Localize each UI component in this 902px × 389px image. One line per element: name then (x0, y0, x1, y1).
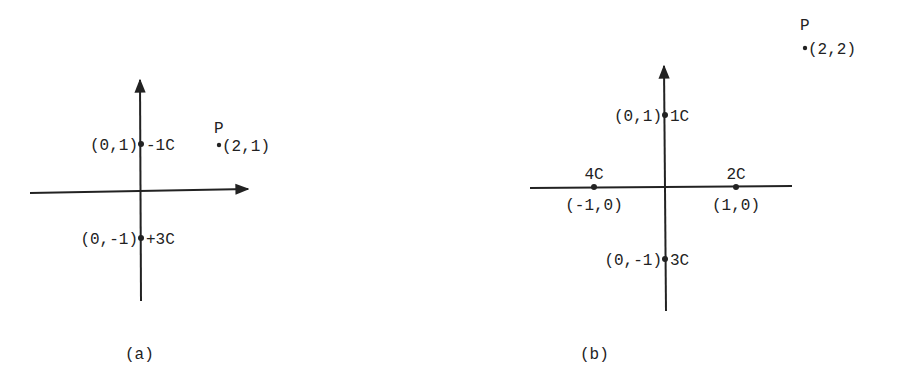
charge-dot (733, 184, 739, 190)
point-p: (2,1)P (214, 120, 270, 156)
coordinate-label: (-1,0) (565, 197, 623, 215)
charge-label: +3C (146, 231, 175, 249)
y-axis (140, 80, 141, 301)
caption-a: (a) (125, 346, 154, 364)
coordinate-label: (0,1) (614, 108, 662, 126)
charge-label: 2C (726, 166, 745, 184)
coordinate-label: (1,0) (712, 197, 760, 215)
charge-point: (0,1)1C (614, 108, 689, 126)
charge-point: 4C(-1,0) (565, 166, 623, 215)
panel-b: (0,1)1C(0,-1)3C2C(1,0)4C(-1,0)(2,2)P (b) (530, 17, 856, 364)
charge-point: (0,-1)+3C (80, 231, 174, 249)
point-dot (803, 46, 807, 50)
point-p: (2,2)P (800, 17, 856, 59)
charge-dot (662, 256, 668, 262)
point-coordinate-label: (2,2) (808, 41, 856, 59)
figure: (0,1)-1C(0,-1)+3C(2,1)P (a) (0,1)1C(0,-1… (0, 0, 902, 389)
panel-a: (0,1)-1C(0,-1)+3C(2,1)P (a) (30, 80, 270, 364)
charge-label: 3C (670, 252, 689, 270)
y-axis (664, 66, 666, 311)
point-name-label: P (800, 17, 810, 35)
charge-dot (662, 112, 668, 118)
coordinate-label: (0,-1) (80, 231, 138, 249)
charge-dot (138, 235, 144, 241)
charge-label: -1C (146, 137, 175, 155)
point-coordinate-label: (2,1) (222, 138, 270, 156)
coordinate-label: (0,-1) (604, 252, 662, 270)
charge-point: (0,1)-1C (90, 137, 175, 155)
charge-label: 1C (670, 108, 689, 126)
point-name-label: P (214, 120, 224, 138)
point-dot (217, 143, 221, 147)
coordinate-label: (0,1) (90, 137, 138, 155)
charge-point: 2C(1,0) (712, 166, 760, 215)
charge-label: 4C (584, 166, 603, 184)
x-axis (30, 189, 248, 193)
caption-b: (b) (580, 346, 609, 364)
x-axis (530, 186, 792, 188)
charge-point: (0,-1)3C (604, 252, 689, 270)
charge-dot (138, 141, 144, 147)
charge-dot (591, 184, 597, 190)
